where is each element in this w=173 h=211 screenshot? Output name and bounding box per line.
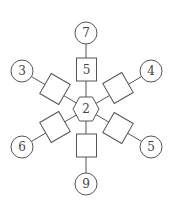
center-hexagon: 2 [73, 97, 99, 121]
square-lower-left [40, 112, 71, 143]
circle-lower-right: 5 [140, 136, 162, 158]
square-lower-right [103, 113, 134, 144]
spoke-upper-right [103, 73, 134, 104]
hexagon-label: 2 [82, 102, 90, 116]
circle-lower-right-label: 5 [147, 140, 155, 154]
square-upper-right [103, 73, 134, 104]
circle-upper-left-label: 3 [18, 64, 26, 78]
circle-upper-right-label: 4 [147, 64, 155, 78]
hexagon-spoke-diagram: 5 7 4 5 9 6 3 [0, 0, 173, 211]
circle-upper-left: 3 [11, 60, 33, 82]
circle-up-label: 7 [82, 26, 90, 40]
spoke-up: 5 [77, 58, 97, 81]
spoke-lower-left [40, 112, 71, 143]
square-upper-left [40, 74, 71, 105]
circle-down: 9 [75, 173, 97, 195]
square-down [77, 134, 97, 157]
square-up-label: 5 [83, 63, 91, 77]
circle-up: 7 [75, 22, 97, 44]
spoke-upper-left [40, 74, 71, 105]
circle-down-label: 9 [82, 177, 90, 191]
circle-lower-left-label: 6 [18, 140, 26, 154]
circle-upper-right: 4 [140, 60, 162, 82]
spoke-down [77, 134, 97, 157]
circle-lower-left: 6 [11, 136, 33, 158]
spoke-lower-right [103, 113, 134, 144]
